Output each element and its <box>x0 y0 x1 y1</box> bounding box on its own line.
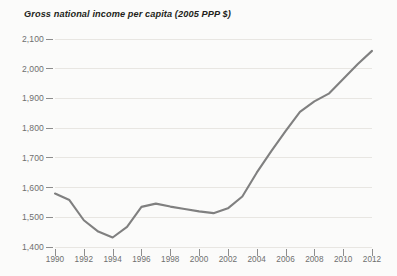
x-axis-tick-label: 2008 <box>305 255 323 264</box>
x-axis-tick-label: 2006 <box>276 255 294 264</box>
y-axis-tick-label: 1,700 <box>22 153 44 163</box>
y-axis-tick-label: 2,100 <box>22 34 44 44</box>
x-axis-tick-label: 2000 <box>190 255 208 264</box>
chart-card: Gross national income per capita (2005 P… <box>0 0 397 276</box>
x-axis-tick-label: 1990 <box>46 255 64 264</box>
data-line-series <box>0 0 397 276</box>
x-axis-tick-label: 2012 <box>363 255 381 264</box>
x-axis-tick-label: 1996 <box>132 255 150 264</box>
y-axis-tick-labels: 1,4001,5001,6001,7001,8001,9002,0002,100 <box>0 0 44 276</box>
y-axis-tick-label: 1,400 <box>22 242 44 252</box>
x-axis-tick-label: 2002 <box>219 255 237 264</box>
y-axis-tick-label: 2,000 <box>22 64 44 74</box>
x-axis-tick-label: 1998 <box>161 255 179 264</box>
x-axis-tick-label: 2004 <box>248 255 266 264</box>
y-axis-tick-label: 1,900 <box>22 93 44 103</box>
y-axis-tick-label: 1,800 <box>22 123 44 133</box>
x-axis-tick-label: 1994 <box>103 255 121 264</box>
y-axis-tick-label: 1,600 <box>22 183 44 193</box>
x-axis-tick-label: 2010 <box>334 255 352 264</box>
x-axis-tick-labels: 1990199219941996199820002002200420062008… <box>0 255 397 271</box>
x-axis-tick-label: 1992 <box>75 255 93 264</box>
y-axis-tick-label: 1,500 <box>22 212 44 222</box>
plot-area <box>0 0 397 276</box>
